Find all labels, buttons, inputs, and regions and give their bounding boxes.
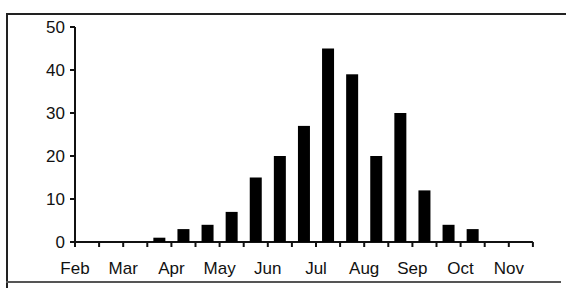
x-tick-label: May <box>204 259 237 278</box>
x-tick-label: Apr <box>158 259 185 278</box>
x-tick-label: Nov <box>494 259 525 278</box>
bar <box>153 238 165 242</box>
x-tick-label: Sep <box>397 259 427 278</box>
x-tick-label: Jun <box>254 259 281 278</box>
bar <box>322 49 334 243</box>
y-tick-label: 20 <box>46 147 65 166</box>
bar <box>394 113 406 242</box>
y-tick-label: 10 <box>46 190 65 209</box>
x-tick-label: Mar <box>109 259 139 278</box>
y-tick-label: 0 <box>56 233 65 252</box>
x-tick-label: Aug <box>349 259 379 278</box>
bar <box>274 156 286 242</box>
x-tick-label: Oct <box>447 259 474 278</box>
bar <box>298 126 310 242</box>
y-tick-label: 30 <box>46 104 65 123</box>
bar <box>250 178 262 243</box>
bar <box>467 229 479 242</box>
bar <box>202 225 214 242</box>
bar <box>418 190 430 242</box>
x-tick-label: Jul <box>305 259 327 278</box>
bar <box>346 74 358 242</box>
y-tick-label: 50 <box>46 18 65 37</box>
bar <box>370 156 382 242</box>
bar <box>177 229 189 242</box>
y-tick-label: 40 <box>46 61 65 80</box>
bar <box>443 225 455 242</box>
x-tick-label: Feb <box>60 259 89 278</box>
bar <box>226 212 238 242</box>
